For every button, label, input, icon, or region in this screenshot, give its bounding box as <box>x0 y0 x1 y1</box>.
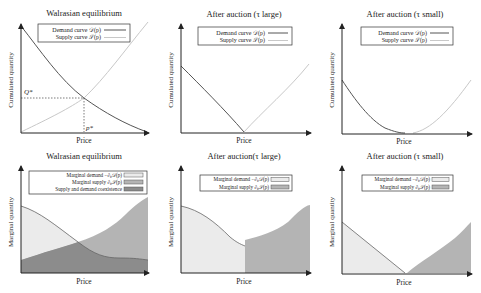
legend-supply-label: Supply curve 𝒮(p) <box>220 37 265 44</box>
demand-curve <box>342 80 405 133</box>
supply-area <box>407 222 471 273</box>
legend-supply-label: Marginal supply ∂ₚ𝒮(p) <box>219 184 269 191</box>
legend-demand-swatch <box>432 178 449 182</box>
legend: Demand curve 𝒟(p) Supply curve 𝒮(p) <box>198 27 292 45</box>
y-axis-label: Marginal quantity <box>328 196 336 247</box>
p-star-label: p* <box>85 124 94 132</box>
panel-title: After auction (τ large) <box>206 9 281 19</box>
legend-supply-label: Supply curve 𝒮(p) <box>56 34 101 41</box>
legend-supply-swatch <box>432 185 449 189</box>
legend-supply-swatch <box>124 180 143 184</box>
y-axis-label: Marginal quantity <box>7 196 15 247</box>
legend: Marginal demand −∂ₚ𝒟(p) Marginal supply … <box>362 175 453 191</box>
panel-title: After auction (τ small) <box>367 9 444 19</box>
legend-supply-label: Marginal supply ∂ₚ𝒮(p) <box>72 179 122 186</box>
x-axis-label: Price <box>236 277 252 286</box>
legend: Demand curve 𝒟(p) Supply curve 𝒮(p) <box>361 27 453 45</box>
q-star-label: Q* <box>24 88 33 96</box>
legend: Marginal demand −∂ₚ𝒟(p) Marginal supply … <box>29 171 147 194</box>
panel-bottom-walrasian: Walrasian equilibrium Price Marginal qua… <box>7 151 149 286</box>
legend: Demand curve 𝒟(p) Supply curve 𝒮(p) <box>38 24 130 42</box>
demand-curve <box>181 66 244 132</box>
legend-supply-label: Supply curve 𝒮(p) <box>382 37 427 44</box>
panel-top-tau-small: After auction (τ small) Price Cumulated … <box>328 9 472 146</box>
legend-demand-label: Marginal demand −∂ₚ𝒟(p) <box>375 176 431 183</box>
legend-demand-label: Marginal demand −∂ₚ𝒟(p) <box>214 176 270 183</box>
supply-curve <box>413 80 471 133</box>
x-axis-label: Price <box>396 137 412 146</box>
panel-title: After auction(τ large) <box>207 151 280 161</box>
legend-coexistence-swatch <box>124 187 143 191</box>
x-axis-label: Price <box>76 136 92 145</box>
y-axis-label: Cumulated quantity <box>328 52 336 108</box>
legend-coexistence-label: Supply and demand coexistence <box>55 186 122 192</box>
panel-bottom-tau-small: After auction (τ small) Price Marginal q… <box>328 151 472 287</box>
legend-demand-label: Demand curve 𝒟(p) <box>216 30 265 37</box>
legend-demand-label: Marginal demand −∂ₚ𝒟(p) <box>67 172 123 179</box>
figure: Walrasian equilibrium Q* p* Price Cumula… <box>0 0 481 293</box>
y-axis-label: Cumulated quantity <box>7 52 15 108</box>
y-axis-label: Cumulated quantity <box>167 52 175 108</box>
demand-area <box>181 206 245 273</box>
x-axis-label: Price <box>236 136 252 145</box>
legend-demand-swatch <box>124 173 143 177</box>
x-axis-label: Price <box>76 277 92 286</box>
supply-curve <box>244 64 309 132</box>
supply-area <box>245 205 310 273</box>
y-axis-label: Marginal quantity <box>167 196 175 247</box>
legend-supply-label: Marginal supply ∂ₚ𝒮(p) <box>380 184 430 191</box>
legend-demand-swatch <box>271 178 289 182</box>
panel-bottom-tau-large: After auction(τ large) Price Marginal qu… <box>167 151 311 286</box>
legend-demand-label: Demand curve 𝒟(p) <box>52 27 101 34</box>
legend-demand-label: Demand curve 𝒟(p) <box>378 30 427 37</box>
panel-title: Walrasian equilibrium <box>46 151 122 161</box>
legend: Marginal demand −∂ₚ𝒟(p) Marginal supply … <box>200 175 292 191</box>
panel-top-tau-large: After auction (τ large) Price Cumulated … <box>167 9 311 145</box>
panel-top-walrasian: Walrasian equilibrium Q* p* Price Cumula… <box>7 8 149 145</box>
x-axis-label: Price <box>396 278 412 287</box>
legend-supply-swatch <box>271 185 289 189</box>
panel-title: After auction (τ small) <box>367 151 444 161</box>
panel-title: Walrasian equilibrium <box>46 8 122 18</box>
